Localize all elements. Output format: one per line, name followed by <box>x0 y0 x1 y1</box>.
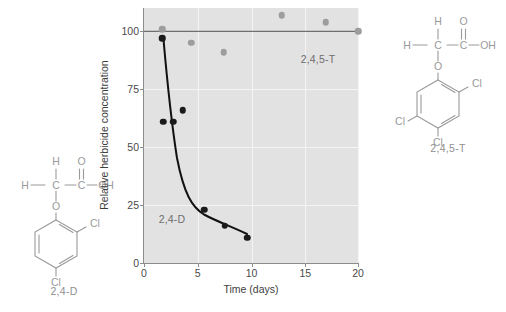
structure-245t: H H C O C OH O Cl Cl Cl <box>396 12 500 124</box>
x-tick-label: 10 <box>246 267 258 279</box>
data-point-245t <box>188 40 195 47</box>
x-tick-label: 15 <box>299 267 311 279</box>
data-point-24d <box>201 206 208 213</box>
data-point-24d <box>160 118 167 125</box>
structure-caption-24d: 2,4-D <box>16 285 112 297</box>
annotation-245t: 2,4,5-T <box>301 53 336 65</box>
y-tick-label: 50 <box>127 141 139 153</box>
atom-label-cl-2: Cl <box>472 77 482 89</box>
atom-label-h-left: H <box>21 179 29 191</box>
data-point-24d <box>179 107 186 114</box>
fit-curve-24d <box>164 39 248 234</box>
data-point-245t <box>355 28 362 35</box>
data-point-245t <box>220 49 227 56</box>
atom-label-o-double: O <box>459 15 467 27</box>
x-axis-label: Time (days) <box>223 283 278 295</box>
x-tick-label: 0 <box>141 267 147 279</box>
data-point-245t <box>159 26 166 33</box>
atom-label-o-ether: O <box>434 60 442 72</box>
y-axis-label: Relative herbicide concentration <box>98 60 110 209</box>
atom-label-h-top: H <box>52 155 60 167</box>
plot-area: 0 25 50 75 100 0 5 10 15 20 <box>144 8 359 263</box>
atom-label-h-left: H <box>403 39 411 51</box>
data-point-24d <box>221 223 228 230</box>
data-point-245t <box>322 19 329 26</box>
annotation-24d: 2,4-D <box>159 213 186 225</box>
atom-label-c-alpha: C <box>434 39 442 51</box>
data-point-24d <box>159 35 166 42</box>
atom-label-o-double: O <box>77 155 85 167</box>
atom-label-cl-5: Cl <box>395 115 405 127</box>
atom-label-c-alpha: C <box>52 179 60 191</box>
herbicide-degradation-figure: H H C O C OH O Cl Cl 2,4-D <box>0 0 506 312</box>
data-point-24d <box>244 234 251 241</box>
atom-label-h-top: H <box>434 15 442 27</box>
data-point-245t <box>278 12 285 19</box>
atom-label-oh: OH <box>480 39 496 51</box>
atom-label-c-carboxyl: C <box>78 179 86 191</box>
y-tick-label: 0 <box>133 257 139 269</box>
atom-label-c-carboxyl: C <box>460 39 468 51</box>
y-tick-label: 100 <box>121 25 139 37</box>
y-tick-label: 25 <box>127 199 139 211</box>
data-point-24d <box>170 118 177 125</box>
x-tick-label: 20 <box>352 267 364 279</box>
structure-caption-245t: 2,4,5-T <box>398 142 498 154</box>
y-tick-label: 75 <box>127 83 139 95</box>
atom-label-cl-2: Cl <box>90 217 100 229</box>
atom-label-o-ether: O <box>52 200 60 212</box>
x-tick-label: 5 <box>195 267 201 279</box>
